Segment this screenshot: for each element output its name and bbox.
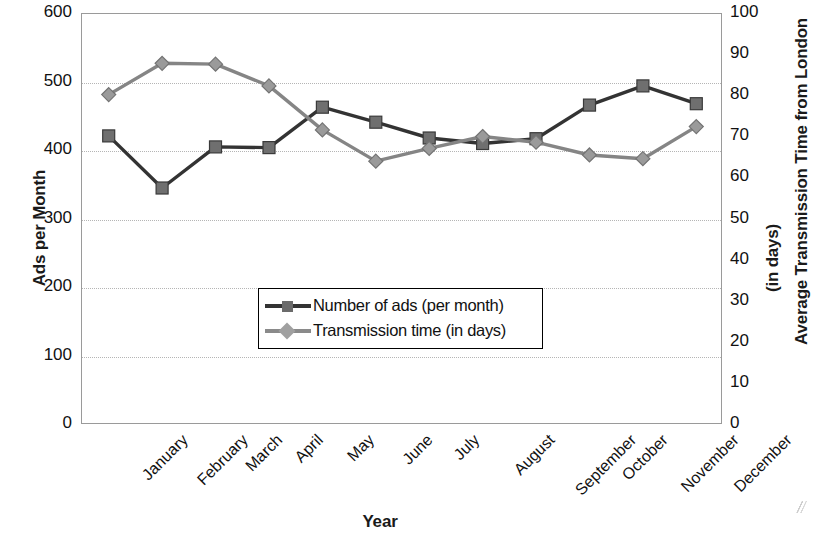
x-category-label: January <box>138 431 191 484</box>
right-tick-label: 50 <box>730 208 782 228</box>
data-point-marker-square <box>584 99 596 111</box>
legend-label-transmission: Transmission time (in days) <box>313 321 506 340</box>
data-point-marker-square <box>263 142 275 154</box>
data-point-marker-square <box>316 101 328 113</box>
left-tick-label: 400 <box>20 139 72 159</box>
data-point-marker-square <box>637 80 649 92</box>
series-layer <box>82 14 723 425</box>
left-tick-label: 200 <box>20 276 72 296</box>
data-point-marker-square <box>690 98 702 110</box>
x-category-label: June <box>399 431 436 468</box>
x-category-label: July <box>451 431 484 464</box>
right-tick-label: 60 <box>730 166 782 186</box>
data-point-marker-diamond <box>636 152 650 166</box>
left-tick-label: 600 <box>20 2 72 22</box>
legend-item-ads: Number of ads (per month) <box>265 293 536 318</box>
left-tick-label: 100 <box>20 345 72 365</box>
right-tick-label: 40 <box>730 249 782 269</box>
right-tick-label: 0 <box>730 413 782 433</box>
legend-label-ads: Number of ads (per month) <box>313 296 504 315</box>
x-axis-title: Year <box>0 512 760 532</box>
left-tick-label: 300 <box>20 208 72 228</box>
legend-diamond-marker-icon <box>265 323 311 339</box>
x-category-label: August <box>510 431 558 479</box>
x-category-label: April <box>291 431 326 466</box>
x-category-label: March <box>242 431 286 475</box>
chart-container: Ads per Month Average Transmission Time … <box>0 0 821 543</box>
left-tick-label: 0 <box>20 413 72 433</box>
legend: Number of ads (per month) Transmission t… <box>258 288 543 349</box>
legend-square-marker-icon <box>265 298 311 314</box>
right-tick-label: 30 <box>730 290 782 310</box>
right-axis-title-line1: Average Transmission Time from London <box>792 85 812 345</box>
right-tick-label: 90 <box>730 43 782 63</box>
data-point-marker-square <box>210 141 222 153</box>
series-line-transmission <box>109 63 697 161</box>
data-point-marker-diamond <box>209 57 223 71</box>
right-tick-label: 10 <box>730 372 782 392</box>
plot-area <box>81 13 722 424</box>
right-tick-label: 70 <box>730 125 782 145</box>
data-point-marker-diamond <box>369 154 383 168</box>
legend-item-transmission: Transmission time (in days) <box>265 318 536 343</box>
right-tick-label: 100 <box>730 2 782 22</box>
data-point-marker-square <box>156 182 168 194</box>
x-category-label: May <box>344 431 378 465</box>
data-point-marker-diamond <box>155 56 169 70</box>
page-scan-artifact <box>793 501 807 513</box>
data-point-marker-square <box>103 130 115 142</box>
right-tick-label: 20 <box>730 331 782 351</box>
right-tick-label: 80 <box>730 84 782 104</box>
data-point-marker-diamond <box>582 148 596 162</box>
series-line-ads <box>109 86 697 188</box>
left-tick-label: 500 <box>20 71 72 91</box>
data-point-marker-diamond <box>102 88 116 102</box>
data-point-marker-square <box>370 116 382 128</box>
